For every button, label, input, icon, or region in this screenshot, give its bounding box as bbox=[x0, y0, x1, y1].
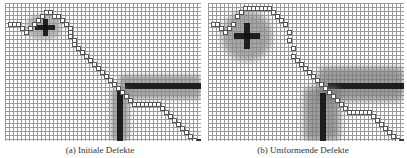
goal-marker bbox=[197, 139, 201, 141]
path-cell bbox=[292, 47, 295, 50]
path-cell bbox=[324, 87, 327, 90]
path-cell bbox=[300, 63, 303, 66]
path-cell bbox=[392, 135, 395, 138]
obstacle-wall-v bbox=[320, 93, 326, 141]
path-cell bbox=[109, 79, 112, 82]
path-cell bbox=[228, 27, 231, 30]
path-cell bbox=[17, 23, 20, 26]
path-cell bbox=[157, 103, 160, 106]
path-cell bbox=[181, 127, 184, 130]
path-cell bbox=[61, 19, 64, 22]
path-cell bbox=[296, 59, 299, 62]
path-cell bbox=[248, 7, 251, 10]
path-cell bbox=[304, 67, 307, 70]
path-cell bbox=[212, 23, 215, 26]
path-cell bbox=[340, 103, 343, 106]
obstacle-wall-h bbox=[125, 83, 201, 89]
path-cell bbox=[21, 27, 24, 30]
path-cell bbox=[384, 127, 387, 130]
path-cell bbox=[65, 23, 68, 26]
path-cell bbox=[137, 103, 140, 106]
path-cell bbox=[113, 83, 116, 86]
path-cell bbox=[280, 19, 283, 22]
path-cell bbox=[189, 135, 192, 138]
path-cell bbox=[53, 15, 56, 18]
caption-a: (a) Initiale Defekte bbox=[0, 145, 200, 155]
path-cell bbox=[396, 139, 399, 141]
panel-a: (a) Initiale Defekte bbox=[0, 0, 200, 158]
obstacle-wall-h bbox=[328, 83, 404, 89]
path-cell bbox=[236, 15, 239, 18]
path-cell bbox=[308, 71, 311, 74]
path-cell bbox=[224, 31, 227, 34]
goal-marker bbox=[400, 139, 404, 141]
path-cell bbox=[81, 51, 84, 54]
path-cell bbox=[69, 35, 72, 38]
path-cell bbox=[216, 23, 219, 26]
path-cell bbox=[173, 119, 176, 122]
path-cell bbox=[93, 63, 96, 66]
path-cell bbox=[121, 91, 124, 94]
path-cell bbox=[380, 123, 383, 126]
path-cell bbox=[284, 23, 287, 26]
path-cell bbox=[89, 59, 92, 62]
path-cell bbox=[268, 7, 271, 10]
path-cell bbox=[133, 103, 136, 106]
path-cell bbox=[161, 107, 164, 110]
path-cell bbox=[193, 139, 196, 141]
path-cell bbox=[73, 39, 76, 42]
path-cell bbox=[185, 131, 188, 134]
path-cell bbox=[117, 87, 120, 90]
path-cell bbox=[73, 43, 76, 46]
path-cell bbox=[348, 111, 351, 114]
path-cell bbox=[292, 55, 295, 58]
path-cell bbox=[165, 111, 168, 114]
path-cell bbox=[328, 91, 331, 94]
path-cell bbox=[13, 23, 16, 26]
caption-b: (b) Umformende Defekte bbox=[203, 145, 403, 155]
path-cell bbox=[220, 27, 223, 30]
path-cell bbox=[316, 79, 319, 82]
path-cell bbox=[364, 111, 367, 114]
grid-map-a bbox=[5, 3, 201, 141]
path-cell bbox=[69, 27, 72, 30]
path-cell bbox=[264, 7, 267, 10]
path-cell bbox=[256, 7, 259, 10]
path-cell bbox=[260, 7, 263, 10]
path-cell bbox=[240, 11, 243, 14]
path-cell bbox=[356, 111, 359, 114]
path-cell bbox=[336, 99, 339, 102]
path-cell bbox=[45, 11, 48, 14]
path-cell bbox=[77, 47, 80, 50]
path-cell bbox=[149, 103, 152, 106]
path-cell bbox=[145, 103, 148, 106]
path-cell bbox=[376, 119, 379, 122]
path-cell bbox=[37, 19, 40, 22]
path-cell bbox=[141, 103, 144, 106]
path-cell bbox=[69, 31, 72, 34]
path-cell bbox=[276, 15, 279, 18]
grid-map-b bbox=[208, 3, 404, 141]
obstacle-wall-v bbox=[117, 91, 123, 141]
path-cell bbox=[97, 67, 100, 70]
path-cell bbox=[388, 131, 391, 134]
path-cell bbox=[360, 111, 363, 114]
path-cell bbox=[57, 15, 60, 18]
path-cell bbox=[49, 11, 52, 14]
obstacle-plus-v bbox=[244, 23, 250, 49]
path-cell bbox=[288, 39, 291, 42]
path-cell bbox=[320, 83, 323, 86]
path-cell bbox=[9, 23, 12, 26]
path-cell bbox=[169, 115, 172, 118]
path-cell bbox=[372, 115, 375, 118]
path-cell bbox=[272, 11, 275, 14]
path-cell bbox=[244, 7, 247, 10]
path-cell bbox=[25, 31, 28, 34]
path-cell bbox=[344, 107, 347, 110]
path-cell bbox=[41, 15, 44, 18]
path-cell bbox=[33, 23, 36, 26]
path-cell bbox=[177, 123, 180, 126]
path-cell bbox=[252, 7, 255, 10]
path-cell bbox=[105, 75, 108, 78]
path-cell bbox=[29, 27, 32, 30]
